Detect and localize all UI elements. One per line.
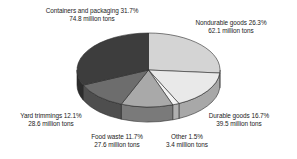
pie-chart-figure: Containers and packaging 31.7% 74.8 mill…	[0, 0, 297, 159]
slice-label-line1: Nondurable goods 26.3%	[176, 19, 286, 27]
slice-label-line2: 62.1 million tons	[176, 27, 286, 35]
slice-label-line2: 39.5 million tons	[186, 120, 292, 128]
slice-label-containers-and-packaging: Containers and packaging 31.7% 74.8 mill…	[31, 7, 153, 23]
pie-side-other	[173, 103, 179, 119]
slice-label-nondurable-goods: Nondurable goods 26.3% 62.1 million tons	[176, 19, 286, 35]
slice-label-line1: Other 1.5%	[156, 133, 218, 141]
slice-label-yard-trimmings: Yard trimmings 12.1% 28.6 million tons	[2, 112, 100, 128]
slice-label-line1: Food waste 11.7%	[72, 133, 162, 141]
slice-label-line1: Durable goods 16.7%	[186, 112, 292, 120]
slice-label-line1: Containers and packaging 31.7%	[31, 7, 153, 15]
slice-label-line1: Yard trimmings 12.1%	[2, 112, 100, 120]
slice-label-other: Other 1.5% 3.4 million tons	[156, 133, 218, 149]
pie-top-slices	[77, 33, 220, 107]
slice-label-line2: 74.8 million tons	[31, 15, 153, 23]
slice-label-food-waste: Food waste 11.7% 27.6 million tons	[72, 133, 162, 149]
slice-label-line2: 27.6 million tons	[72, 141, 162, 149]
pie-slice-nondurable-goods	[149, 33, 220, 73]
slice-label-durable-goods: Durable goods 16.7% 39.5 million tons	[186, 112, 292, 128]
slice-label-line2: 28.6 million tons	[2, 120, 100, 128]
slice-label-line2: 3.4 million tons	[156, 141, 218, 149]
